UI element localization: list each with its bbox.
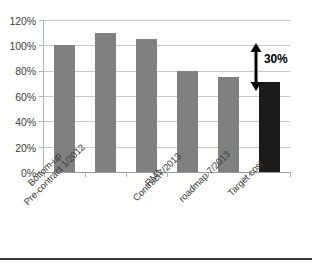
y-axis-label-40: 40%	[0, 117, 36, 128]
gridline-40	[44, 121, 290, 122]
bottom-divider	[0, 258, 312, 260]
y-axis-label-60: 60%	[0, 92, 36, 103]
gridline-60	[44, 96, 290, 97]
gridline-120	[44, 20, 290, 21]
x-axis-tick-2	[126, 172, 127, 177]
y-axis-label-80: 80%	[0, 66, 36, 77]
x-axis-tick-1	[85, 172, 86, 177]
bar-chart-figure: 120% 100% 80% 60% 40% 20% 0% Bottom-u	[0, 0, 312, 270]
y-axis-label-120: 120%	[0, 16, 36, 27]
y-axis-label-100: 100%	[0, 41, 36, 52]
x-axis-tick-6	[290, 172, 291, 177]
delta-double-arrow-icon	[249, 43, 263, 91]
y-axis-label-20: 20%	[0, 143, 36, 154]
delta-label-30-percent: 30%	[264, 53, 287, 65]
bar-pre-contract-1-2012	[95, 33, 116, 172]
bar-rm1	[136, 39, 157, 172]
bar-target-cost	[259, 82, 280, 172]
